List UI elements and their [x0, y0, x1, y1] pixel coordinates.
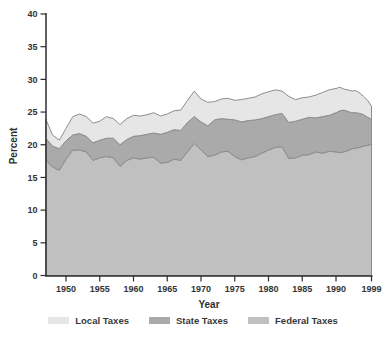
legend-label-federal: Federal Taxes — [275, 315, 338, 326]
y-tick-label: 20 — [27, 140, 37, 150]
chart-panel: 0510152025303540195019551960196519701975… — [0, 0, 386, 338]
x-tick-label: 1970 — [191, 284, 211, 294]
y-axis-title: Percent — [8, 128, 19, 165]
x-tick-label: 1999 — [361, 284, 381, 294]
x-tick-label: 1985 — [292, 284, 312, 294]
area-federal-taxes — [46, 143, 372, 275]
legend-item-local: Local Taxes — [48, 315, 129, 326]
legend: Local Taxes State Taxes Federal Taxes — [0, 312, 386, 328]
legend-label-state: State Taxes — [176, 315, 228, 326]
legend-item-state: State Taxes — [149, 315, 228, 326]
y-tick-label: 30 — [27, 75, 37, 85]
x-tick-label: 1975 — [225, 284, 245, 294]
x-tick-label: 1955 — [90, 284, 110, 294]
x-axis-title: Year — [198, 299, 219, 310]
y-tick-label: 10 — [27, 205, 37, 215]
y-tick-label: 25 — [27, 107, 37, 117]
x-tick-label: 1990 — [326, 284, 346, 294]
y-tick-label: 40 — [27, 9, 37, 19]
local-taxes-swatch — [48, 317, 69, 324]
y-tick-label: 35 — [27, 42, 37, 52]
x-tick-label: 1980 — [258, 284, 278, 294]
y-tick-label: 0 — [32, 271, 37, 281]
stacked-area-chart: 0510152025303540195019551960196519701975… — [0, 0, 386, 312]
y-tick-label: 15 — [27, 173, 37, 183]
legend-item-federal: Federal Taxes — [248, 315, 338, 326]
x-tick-label: 1960 — [123, 284, 143, 294]
y-tick-label: 5 — [32, 238, 37, 248]
x-tick-label: 1965 — [157, 284, 177, 294]
x-tick-label: 1950 — [56, 284, 76, 294]
federal-taxes-swatch — [248, 317, 269, 324]
legend-label-local: Local Taxes — [75, 315, 129, 326]
state-taxes-swatch — [149, 317, 170, 324]
